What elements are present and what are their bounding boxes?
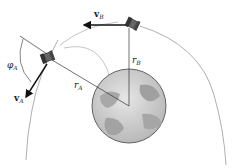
- tangent-line-A: [20, 36, 50, 56]
- velocity-A-arrow: [26, 64, 47, 97]
- phi-A-arc: [20, 39, 31, 82]
- label-phiA: φA: [7, 60, 18, 71]
- label-vB: vB: [93, 9, 104, 20]
- label-vA: vA: [13, 93, 24, 104]
- orbit-diagram: vB vA φA rA rB: [0, 0, 239, 168]
- satellite-B-icon: [125, 17, 141, 32]
- satellite-A-icon: [40, 50, 56, 64]
- label-rB: rB: [132, 55, 141, 66]
- inner-arc: [64, 47, 110, 78]
- label-rA: rA: [74, 80, 83, 91]
